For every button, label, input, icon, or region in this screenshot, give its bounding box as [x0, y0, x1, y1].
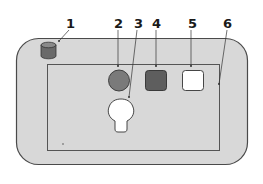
callout-3: 3 [134, 16, 143, 31]
callout-1: 1 [66, 16, 75, 31]
speck-mark [62, 143, 64, 145]
callout-5: 5 [188, 16, 197, 31]
cylinder-icon [41, 42, 56, 59]
device-diagram: 1 2 3 4 5 6 [0, 0, 263, 184]
dark-square-icon [146, 71, 167, 91]
circle-icon [109, 70, 130, 91]
callout-4: 4 [152, 16, 161, 31]
callout-2: 2 [114, 16, 123, 31]
white-square-icon [183, 71, 204, 91]
callout-6: 6 [223, 16, 232, 31]
